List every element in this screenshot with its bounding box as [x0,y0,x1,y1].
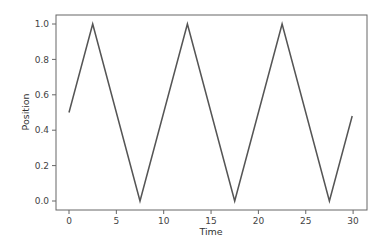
x-tick-label: 15 [205,216,216,226]
y-axis-ticks: 0.00.20.40.60.81.0 [35,19,56,206]
x-tick-label: 30 [347,216,359,226]
y-tick-label: 0.0 [35,196,50,206]
y-tick-label: 1.0 [35,19,50,29]
x-tick-label: 0 [66,216,72,226]
x-axis-ticks: 051015202530 [66,210,359,226]
y-tick-label: 0.6 [35,90,50,100]
x-tick-label: 10 [158,216,170,226]
y-tick-label: 0.8 [35,55,50,65]
y-tick-label: 0.4 [35,125,50,135]
line-chart: 0.00.20.40.60.81.0 051015202530 Time Pos… [0,0,386,250]
x-tick-label: 5 [113,216,119,226]
x-tick-label: 25 [300,216,311,226]
x-axis-label: Time [198,226,222,237]
y-axis-label: Position [20,94,31,131]
x-tick-label: 20 [253,216,265,226]
y-tick-label: 0.2 [35,161,49,171]
